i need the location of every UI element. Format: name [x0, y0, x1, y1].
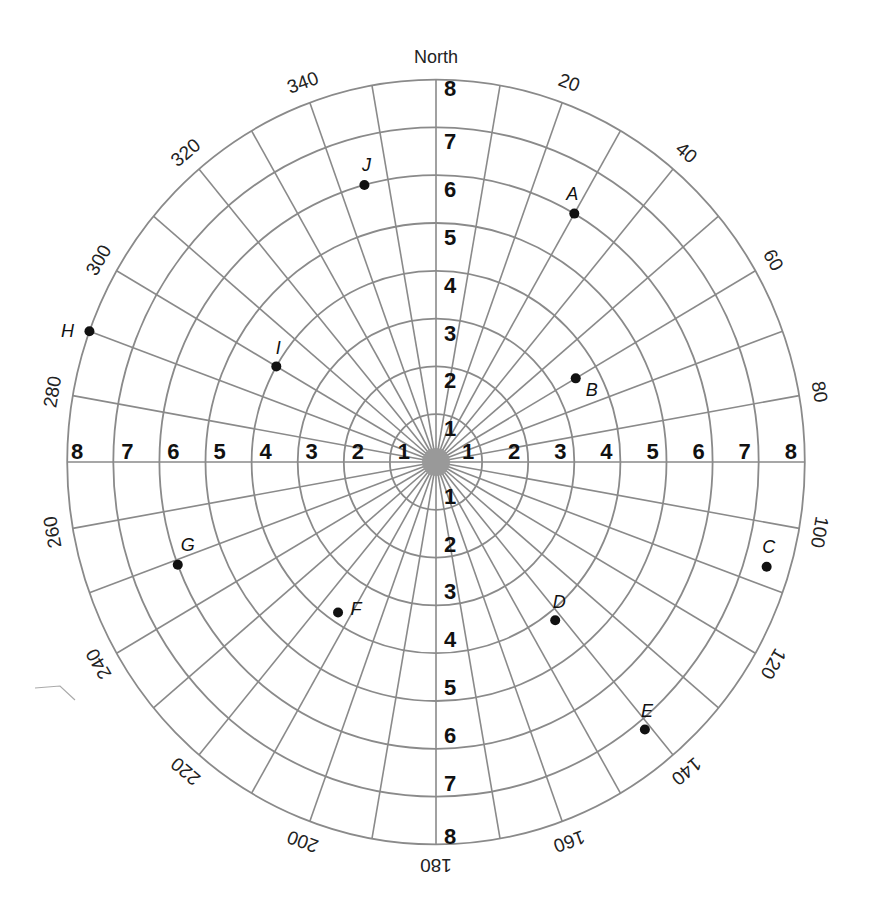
ring-num-north-8: 8 — [444, 76, 456, 101]
stray-mark — [35, 686, 75, 700]
ring-num-north-3: 3 — [444, 321, 456, 346]
degree-label-140: 140 — [668, 753, 706, 789]
degree-label-260: 260 — [39, 515, 65, 550]
ring-num-west-8: 8 — [71, 439, 83, 464]
point-F: F — [333, 599, 363, 619]
point-dot — [271, 361, 281, 371]
ring-num-west-6: 6 — [167, 439, 179, 464]
degree-label-180: 180 — [420, 855, 452, 876]
point-dot — [550, 615, 560, 625]
ring-num-north-1: 1 — [444, 416, 456, 441]
point-dot — [359, 180, 369, 190]
point-G: G — [173, 535, 195, 570]
degree-label-20: 20 — [556, 69, 583, 96]
point-label: J — [361, 155, 372, 175]
degree-label-100: 100 — [807, 515, 833, 550]
center-hub — [422, 448, 450, 476]
point-J: J — [359, 155, 372, 190]
ring-num-west-7: 7 — [121, 439, 133, 464]
ring-num-east-8: 8 — [785, 439, 797, 464]
ring-num-south-4: 4 — [444, 627, 457, 652]
point-C: C — [762, 537, 777, 572]
point-label: I — [276, 338, 281, 358]
ring-num-north-7: 7 — [444, 129, 456, 154]
degree-label-220: 220 — [167, 753, 205, 789]
ring-num-south-8: 8 — [444, 824, 456, 849]
ring-num-west-3: 3 — [306, 439, 318, 464]
point-label: E — [641, 701, 654, 721]
degree-label-40: 40 — [672, 138, 702, 168]
point-label: H — [61, 321, 75, 341]
ring-num-east-3: 3 — [554, 439, 566, 464]
degree-label-120: 120 — [756, 645, 790, 683]
degree-label-280: 280 — [39, 374, 65, 409]
ring-num-west-4: 4 — [259, 439, 272, 464]
point-label: G — [181, 535, 195, 555]
degree-label-340: 340 — [284, 67, 321, 98]
point-dot — [640, 724, 650, 734]
point-dot — [333, 608, 343, 618]
degree-label-160: 160 — [551, 826, 588, 857]
ring-num-south-7: 7 — [444, 771, 456, 796]
point-label: C — [762, 537, 776, 557]
point-dot — [173, 560, 183, 570]
point-dot — [762, 562, 772, 572]
ring-num-east-6: 6 — [692, 439, 704, 464]
ring-num-east-5: 5 — [646, 439, 658, 464]
point-H: H — [61, 321, 95, 341]
ring-num-east-2: 2 — [508, 439, 520, 464]
point-label: B — [586, 380, 598, 400]
ring-num-south-6: 6 — [444, 723, 456, 748]
degree-label-300: 300 — [82, 241, 116, 279]
ring-num-west-5: 5 — [213, 439, 225, 464]
ring-num-south-2: 2 — [444, 532, 456, 557]
point-I: I — [271, 338, 281, 371]
ring-num-east-7: 7 — [739, 439, 751, 464]
ring-num-east-1: 1 — [462, 439, 474, 464]
north-label: North — [414, 47, 458, 67]
degree-label-320: 320 — [167, 134, 205, 170]
polar-grid-diagram: 12345678123456781234567812345678 2040608… — [0, 0, 870, 918]
point-dot — [84, 326, 94, 336]
ring-num-south-5: 5 — [444, 675, 456, 700]
point-label: F — [351, 599, 363, 619]
point-label: D — [553, 592, 566, 612]
ring-num-north-4: 4 — [444, 273, 457, 298]
point-dot — [569, 209, 579, 219]
degree-label-240: 240 — [82, 645, 116, 683]
degree-label-80: 80 — [808, 380, 832, 404]
point-dot — [571, 373, 581, 383]
point-A: A — [565, 184, 579, 219]
ring-num-south-3: 3 — [444, 579, 456, 604]
point-B: B — [571, 373, 598, 400]
ring-num-west-2: 2 — [352, 439, 364, 464]
ring-num-west-1: 1 — [398, 439, 410, 464]
ring-num-east-4: 4 — [600, 439, 613, 464]
ring-num-south-1: 1 — [444, 484, 456, 509]
degree-label-200: 200 — [284, 826, 321, 857]
ring-num-north-2: 2 — [444, 368, 456, 393]
point-label: A — [565, 184, 578, 204]
ring-num-north-6: 6 — [444, 177, 456, 202]
ring-num-north-5: 5 — [444, 225, 456, 250]
degree-label-60: 60 — [759, 246, 788, 275]
